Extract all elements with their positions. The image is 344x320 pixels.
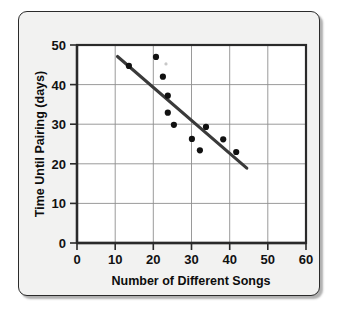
data-point — [220, 136, 226, 142]
y-tick-label-0: 0 — [59, 236, 66, 251]
data-point — [165, 93, 171, 99]
data-point — [171, 122, 177, 128]
data-point — [233, 149, 239, 155]
y-tick-label-10: 10 — [52, 196, 66, 211]
data-point — [189, 136, 195, 142]
data-point — [203, 124, 209, 130]
x-tick-label-20: 20 — [146, 252, 160, 267]
y-tick-label-30: 30 — [52, 117, 66, 132]
x-tick-label-30: 30 — [184, 252, 198, 267]
x-tick-label-60: 60 — [299, 252, 313, 267]
scatter-chart: 50 40 30 20 10 0 0 10 20 30 40 50 60 Num… — [0, 0, 344, 320]
chart-screenshot: 50 40 30 20 10 0 0 10 20 30 40 50 60 Num… — [0, 0, 344, 320]
y-tick-label-50: 50 — [52, 38, 66, 53]
data-point — [126, 63, 132, 69]
data-point — [165, 110, 171, 116]
faint-mark — [164, 62, 167, 65]
data-point — [160, 74, 166, 80]
faint-marks — [164, 62, 167, 65]
x-tick-label-40: 40 — [222, 252, 236, 267]
x-tick-labels: 0 10 20 30 40 50 60 — [73, 252, 313, 267]
y-tick-label-40: 40 — [52, 78, 66, 93]
data-point — [197, 147, 203, 153]
x-tick-label-0: 0 — [73, 252, 80, 267]
data-point — [153, 54, 159, 60]
y-tick-labels: 50 40 30 20 10 0 — [52, 38, 66, 251]
y-tick-label-20: 20 — [52, 157, 66, 172]
x-axis-title: Number of Different Songs — [111, 274, 270, 288]
x-tick-label-50: 50 — [261, 252, 275, 267]
x-tick-label-10: 10 — [108, 252, 122, 267]
y-axis-title: Time Until Pairing (days) — [33, 71, 47, 217]
